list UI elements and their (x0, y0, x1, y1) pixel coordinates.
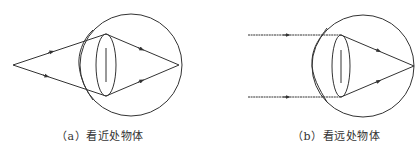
ray-lower-incident (13, 65, 106, 96)
eye-accommodation-figure: （a）看近处物体 （b）看远处物体 (0, 0, 415, 154)
panel-b-far-object (248, 15, 414, 117)
ray-upper-incident (13, 34, 106, 65)
panel-a-near-object (13, 14, 182, 116)
eyeball-outline (80, 14, 182, 116)
arrow-icon (48, 52, 52, 53)
ray-upper-refracted (106, 34, 179, 65)
cornea-bulge (312, 28, 327, 102)
ray-lower-refracted (106, 65, 179, 96)
caption-a: （a）看近处物体 (56, 127, 144, 143)
caption-b: （b）看远处物体 (292, 127, 380, 143)
arrow-icon (43, 75, 47, 76)
